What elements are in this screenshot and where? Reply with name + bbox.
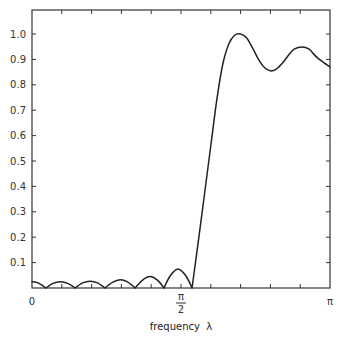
axis-ticks: [32, 10, 330, 288]
y-tick-label: 0.6: [10, 130, 26, 141]
plot-frame: [32, 10, 330, 288]
y-tick-label: 0.7: [10, 105, 26, 116]
y-tick-label: 0.4: [10, 181, 26, 192]
x-axis-label: frequency λ: [150, 321, 213, 332]
x-tick-label-zero: 0: [29, 296, 35, 307]
y-tick-label: 0.8: [10, 79, 26, 90]
frequency-response-chart: 0.10.20.30.40.50.60.70.80.91.0 0 π 2 π f…: [0, 0, 340, 340]
y-tick-labels: 0.10.20.30.40.50.60.70.80.91.0: [10, 29, 26, 269]
y-tick-label: 0.9: [10, 54, 26, 65]
x-tick-label-pi: π: [327, 296, 333, 307]
y-tick-label: 0.5: [10, 156, 26, 167]
response-curve: [32, 34, 330, 288]
y-tick-label: 0.3: [10, 206, 26, 217]
x-tick-label-pi-half-denominator: 2: [178, 304, 184, 315]
y-tick-label: 1.0: [10, 29, 26, 40]
y-tick-label: 0.2: [10, 232, 26, 243]
x-tick-label-pi-half-numerator: π: [178, 291, 184, 302]
y-tick-label: 0.1: [10, 257, 26, 268]
